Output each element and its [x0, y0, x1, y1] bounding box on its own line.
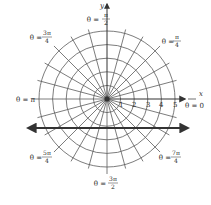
- svg-text:7π: 7π: [172, 149, 180, 156]
- spoke-120: [71, 37, 107, 99]
- svg-text:3π: 3π: [109, 175, 117, 182]
- angle-label-3pi-over-2: θ = 3π 2: [94, 175, 118, 190]
- svg-text:5π: 5π: [43, 149, 51, 156]
- radial-spokes: [32, 29, 177, 174]
- spoke-30: [107, 63, 169, 99]
- svg-text:π: π: [175, 33, 179, 40]
- y-axis-label: y: [99, 2, 105, 10]
- tick-3: 3: [146, 101, 150, 109]
- spoke-210: [45, 99, 107, 135]
- svg-text:4: 4: [174, 157, 178, 164]
- spoke-135: [54, 46, 107, 99]
- svg-text:θ =: θ =: [87, 16, 99, 24]
- svg-text:θ = 0: θ = 0: [185, 102, 204, 110]
- angle-label-5pi-over-4: θ = 5π 4: [30, 149, 52, 164]
- tick-1: 1: [119, 101, 123, 109]
- polar-grid-diagram: y x 1 2 3 4 5 θ = 0 θ = π θ = π 2 θ = 3π: [0, 0, 211, 205]
- tick-4: 4: [159, 101, 164, 109]
- spoke-45: [107, 46, 160, 99]
- svg-text:π: π: [104, 11, 108, 18]
- svg-text:θ =: θ =: [162, 38, 174, 46]
- angle-label-pi-over-2: θ = π 2: [87, 11, 110, 26]
- spoke-225: [54, 99, 107, 152]
- svg-text:θ =: θ =: [159, 154, 171, 162]
- svg-text:4: 4: [175, 41, 179, 48]
- svg-text:θ =: θ =: [30, 154, 42, 162]
- tick-2: 2: [132, 101, 136, 109]
- spoke-300: [107, 99, 143, 161]
- angle-label-0: θ = 0: [185, 102, 204, 110]
- svg-text:4: 4: [45, 157, 49, 164]
- x-axis-label: x: [199, 90, 203, 98]
- angle-label-3pi-over-4: θ = 3π 4: [30, 29, 52, 44]
- tick-5: 5: [173, 101, 177, 109]
- spoke-240: [71, 99, 107, 161]
- svg-text:θ = π: θ = π: [16, 96, 36, 104]
- angle-label-pi-over-4: θ = π 4: [162, 33, 181, 48]
- origin-point: [105, 97, 110, 102]
- svg-text:4: 4: [45, 37, 49, 44]
- svg-text:2: 2: [111, 183, 115, 190]
- svg-text:θ =: θ =: [94, 180, 106, 188]
- svg-text:3π: 3π: [43, 29, 51, 36]
- svg-text:θ =: θ =: [30, 34, 42, 42]
- svg-text:2: 2: [104, 19, 108, 26]
- spoke-150: [45, 63, 107, 99]
- angle-label-pi: θ = π: [16, 96, 36, 104]
- spoke-60: [107, 37, 143, 99]
- angle-label-7pi-over-4: θ = 7π 4: [159, 149, 181, 164]
